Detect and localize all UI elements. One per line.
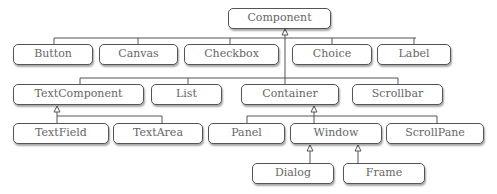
inheritance-arrow-container <box>311 106 317 112</box>
node-container: Container <box>241 84 339 105</box>
node-canvas: Canvas <box>99 44 178 65</box>
inheritance-arrow-dialog <box>307 145 313 151</box>
node-textfield: TextField <box>13 123 109 144</box>
node-component: Component <box>228 8 331 29</box>
node-scrollbar: Scrollbar <box>352 84 443 105</box>
class-hierarchy-diagram: Component Button Canvas Checkbox Choice … <box>0 0 497 194</box>
node-list: List <box>151 84 222 105</box>
inheritance-arrow-component <box>282 29 288 35</box>
node-choice: Choice <box>292 44 372 65</box>
node-label: Label <box>377 44 451 65</box>
node-frame: Frame <box>343 163 425 184</box>
node-textcomponent: TextComponent <box>13 84 144 105</box>
node-button: Button <box>13 44 93 65</box>
node-dialog: Dialog <box>252 163 334 184</box>
node-textarea: TextArea <box>113 123 203 144</box>
inheritance-arrow-textcomponent <box>54 106 60 112</box>
node-checkbox: Checkbox <box>184 44 279 65</box>
node-scrollpane: ScrollPane <box>386 123 484 144</box>
node-panel: Panel <box>208 123 285 144</box>
node-window: Window <box>290 123 382 144</box>
inheritance-arrow-frame <box>355 145 361 151</box>
